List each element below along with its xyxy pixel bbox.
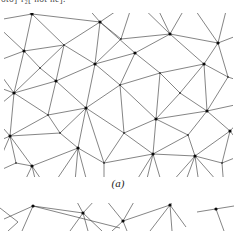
net-edge [14,93,48,115]
net-edge [104,133,124,163]
net-edge [95,22,100,64]
net-vertex-dot [227,76,229,78]
net-edge [10,93,14,136]
net-edge [76,203,83,213]
net-edge [135,53,160,73]
net-edge [120,85,124,133]
net-edge [170,205,186,227]
net-vertex-dot [154,117,157,120]
net-edge [188,111,207,135]
net-edge [4,163,16,173]
net-vertex-dot [120,38,122,40]
net-edge [78,148,90,177]
net-edge [207,111,230,131]
net-vertex-dot [216,41,219,44]
net-edge [56,45,64,81]
net-edge [164,156,195,177]
net-edge [154,13,170,34]
net-edge [33,206,83,213]
net-vertex-dot [76,146,79,149]
net-edge [64,45,95,64]
net-vertex-dot [22,49,25,52]
net-edge [195,156,224,177]
net-vertex-dot [221,162,223,164]
net-edge [40,45,64,68]
net-edge [56,64,95,81]
net-edge [218,43,228,77]
net-vertex-dot [54,79,57,82]
net-edge [207,77,228,111]
net-edge [24,45,64,51]
net-edge [123,205,170,221]
paper-page: oto]·r₂[ not ne]. (a) [0,0,236,231]
net-vertex-dot [179,92,181,94]
net-edge [24,51,40,68]
net-edge [153,154,195,156]
net-edge [120,73,160,85]
net-edge [106,203,123,221]
net-edge [49,148,78,177]
net-edge [182,156,195,177]
net-edge [86,64,95,108]
net-edge [180,93,207,111]
net-edge [216,209,224,231]
net-vertex-dot [228,129,231,132]
net-edge [4,51,24,63]
net-vertex-dot [133,51,136,54]
net-edge [218,13,229,43]
net-edge [204,64,207,111]
net-vertex-dot [187,134,189,136]
net-vertex-dot [81,211,84,214]
net-edge [33,206,120,228]
net-edge [56,81,86,108]
net-edge [64,22,100,45]
net-vertex-dot [8,134,11,137]
net-edge [123,203,135,221]
net-edge [121,13,134,39]
net-vertex-dot [168,203,171,206]
net-edge [95,64,120,85]
net-edge [60,108,86,133]
net-edge [16,163,32,166]
net-vertex-dot [84,106,87,109]
net-edge [86,108,124,133]
net-vertex-dot [103,162,105,164]
net-edge [104,154,153,163]
net-vertex-dot [39,67,41,69]
net-edge [156,73,160,119]
net-edge [156,119,188,135]
net-vertex-dot [31,204,34,207]
net-edge [124,119,156,133]
net-edge [86,85,120,108]
net-edge [170,34,204,64]
net-edge [153,119,156,154]
net-edge [4,113,10,136]
net-edge [48,115,60,133]
net-edge [4,63,14,93]
net-edge [120,85,156,119]
net-vertex-dot [59,132,61,134]
net-edge [4,136,10,173]
net-edge [24,14,32,51]
net-edge [74,148,78,177]
net-edge [10,133,60,136]
net-edge [153,135,188,154]
net-vertex-dot [47,114,49,116]
net-edge [170,34,218,43]
net-edge [32,148,78,166]
net-edge [83,213,102,231]
net-edge [8,222,18,231]
net-edge [22,206,33,231]
net-edge [170,205,172,231]
net-vertex-dot [202,62,205,65]
net-edge [195,156,222,163]
net-edge [4,206,33,219]
net-edge [48,108,86,115]
net-vertex-dot [205,109,208,112]
net-edge [32,14,64,45]
net-edge [188,135,195,156]
net-edge [112,221,123,231]
net-edge [40,68,56,81]
net-vertex-dot [193,154,196,157]
net-edge [14,51,24,93]
